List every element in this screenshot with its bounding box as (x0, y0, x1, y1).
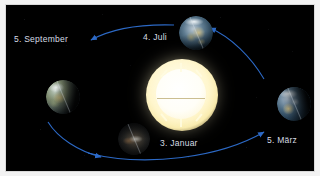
label-juli: 4. Juli (143, 32, 167, 42)
sun-ray (180, 63, 182, 72)
arrow-to-januar (48, 122, 101, 157)
sun-ray (180, 118, 182, 127)
orbit-diagram: 5. September 4. Juli 5. März 3. Januar (5, 4, 315, 172)
label-januar: 3. Januar (160, 138, 198, 148)
earth-september (46, 80, 80, 114)
sun-core (156, 69, 206, 119)
earth-juli (179, 16, 213, 50)
arrow-to-juli (210, 28, 264, 79)
earth-januar (118, 123, 150, 155)
figure-canvas: 5. September 4. Juli 5. März 3. Januar (0, 0, 320, 176)
label-september: 5. September (14, 34, 68, 44)
sun-equator-band (157, 98, 205, 99)
label-maerz: 5. März (267, 135, 297, 145)
earth-maerz (277, 87, 311, 121)
